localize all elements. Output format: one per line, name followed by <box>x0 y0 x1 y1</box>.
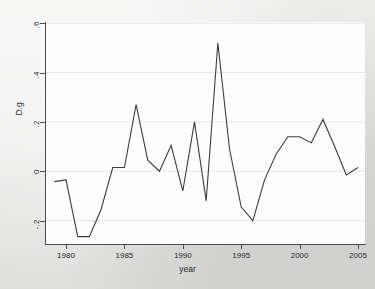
x-axis-title: year <box>0 264 375 274</box>
x-tick-mark <box>66 245 67 249</box>
data-series-group <box>54 43 358 237</box>
y-tick-label: -.2 <box>33 219 42 229</box>
plot-area <box>45 22 365 244</box>
chart-figure: -.20.2.4.6 198019851990199520002005 D.g … <box>0 0 375 289</box>
y-axis-title: D.g <box>14 102 24 115</box>
x-tick-mark <box>124 245 125 249</box>
x-tick-label: 1995 <box>232 251 250 260</box>
series-line <box>54 43 358 237</box>
x-tick-mark <box>183 245 184 249</box>
x-tick-label: 1985 <box>115 251 133 260</box>
y-tick-label: 0 <box>33 170 42 175</box>
x-tick-label: 2000 <box>291 251 309 260</box>
x-tick-mark <box>300 245 301 249</box>
x-tick-label: 2005 <box>349 251 367 260</box>
plot-svg <box>45 22 365 244</box>
y-tick-label: .2 <box>33 120 42 127</box>
x-tick-mark <box>241 245 242 249</box>
y-tick-label: .4 <box>33 71 42 78</box>
x-tick-mark <box>358 245 359 249</box>
x-tick-label: 1980 <box>57 251 75 260</box>
y-tick-label: .6 <box>33 22 42 29</box>
x-axis-line <box>45 244 366 245</box>
y-axis-line <box>45 22 46 245</box>
x-tick-label: 1990 <box>174 251 192 260</box>
